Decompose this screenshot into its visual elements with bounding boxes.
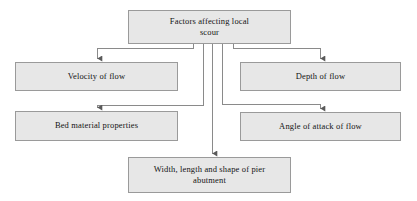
- node-label: Width, length and shape of pier abutment: [154, 164, 265, 186]
- node-width-length-shape-of-pier-abutment: Width, length and shape of pier abutment: [128, 157, 291, 193]
- node-label: Bed material properties: [55, 120, 138, 131]
- node-label: Velocity of flow: [68, 71, 126, 82]
- edge-root-to-depth: [234, 44, 321, 59]
- node-bed-material-properties: Bed material properties: [15, 111, 178, 141]
- node-velocity-of-flow: Velocity of flow: [15, 62, 178, 91]
- node-label: Angle of attack of flow: [279, 121, 362, 132]
- node-depth-of-flow: Depth of flow: [240, 62, 401, 91]
- node-angle-of-attack-of-flow: Angle of attack of flow: [240, 112, 401, 141]
- flowchart-diagram: Factors affecting local scour Velocity o…: [0, 0, 417, 201]
- node-factors-affecting-local-scour: Factors affecting local scour: [128, 10, 291, 44]
- edge-root-to-velocity: [98, 44, 194, 59]
- node-label: Factors affecting local scour: [170, 16, 249, 38]
- node-label: Depth of flow: [296, 71, 346, 82]
